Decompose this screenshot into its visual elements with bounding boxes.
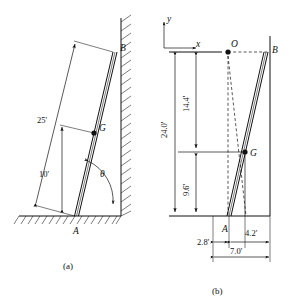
label-a-b: A — [221, 224, 228, 234]
dimension-9-6ft: 9.6' — [181, 157, 196, 212]
axis-label-y: y — [166, 14, 172, 24]
panel-b: y x O B G A — [159, 14, 278, 296]
caption-b: (b) — [212, 286, 223, 296]
construction-line-o-to-g — [228, 56, 246, 216]
dimension-label-25ft: 25' — [37, 115, 48, 125]
angle-theta-a: θ — [88, 161, 113, 204]
dimension-label-7-0ft: 7.0' — [230, 246, 243, 256]
label-g-b: G — [250, 148, 257, 158]
point-marker-o-b — [225, 49, 230, 54]
panel-a: G A B 25' 10' θ (a) — [14, 15, 131, 271]
figure-svg: G A B 25' 10' θ (a) — [0, 0, 293, 307]
dimension-label-4-2ft: 4.2' — [245, 228, 258, 238]
dimension-label-9-6ft: 9.6' — [181, 183, 191, 196]
dimension-2-8ft: 2.8' — [197, 237, 228, 247]
ground-surface-a — [14, 216, 121, 224]
label-b-a: B — [120, 43, 126, 53]
dimension-7-0ft: 7.0' — [214, 246, 269, 257]
figure-root: G A B 25' 10' θ (a) — [0, 0, 293, 307]
dimension-24ft: 24.0' — [159, 56, 175, 212]
coordinate-axes-b: y x — [164, 14, 201, 49]
dimension-label-10ft: 10' — [39, 169, 50, 179]
dimension-4-2ft: 4.2' — [231, 228, 269, 242]
label-b-b: B — [272, 45, 278, 55]
ladder-b — [227, 52, 268, 216]
label-o-b: O — [231, 39, 238, 49]
dimension-label-24ft: 24.0' — [159, 121, 169, 138]
label-theta: θ — [100, 169, 105, 179]
label-g-a: G — [99, 123, 106, 133]
dimension-14-4ft: 14.4' — [181, 56, 196, 148]
dimension-label-14-4ft: 14.4' — [181, 95, 191, 112]
label-a-a: A — [72, 226, 79, 236]
dimension-label-2-8ft: 2.8' — [197, 237, 210, 247]
caption-a: (a) — [63, 261, 73, 271]
axis-label-x: x — [195, 39, 201, 49]
